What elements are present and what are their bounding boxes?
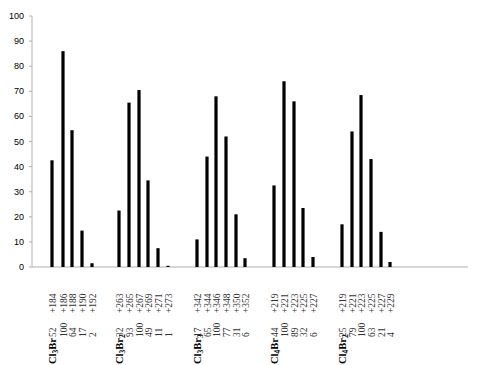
peak-label: 6+352 [241, 293, 251, 337]
bar [234, 214, 237, 267]
group-label: Cl4Br [269, 338, 282, 364]
bar [379, 232, 382, 267]
y-tick-label: 10 [14, 237, 24, 247]
bar [243, 258, 246, 267]
group-label: Cl4Br2 [337, 334, 350, 364]
y-tick-label: 30 [14, 187, 24, 197]
bar [117, 211, 120, 267]
peak-label: 63+225 [367, 293, 377, 337]
peak-label: 77+348 [222, 293, 232, 337]
peak-label: 25+219 [338, 293, 348, 337]
bar [369, 159, 372, 267]
y-tick-label: 70 [14, 86, 24, 96]
bar-group-cl4br2 [340, 95, 391, 267]
y-tick-label: 0 [19, 262, 24, 272]
y-tick-label: 20 [14, 212, 24, 222]
y-tick-label: 100 [9, 11, 24, 21]
group-label: Cl3Br2 [114, 334, 127, 364]
x-tick-labels: 52+184100+18664+18817+1902+192Cl3Br32+26… [47, 293, 396, 364]
bar [205, 157, 208, 267]
bar [301, 208, 304, 267]
bar-group-cl3br [50, 51, 93, 267]
y-axis: 0102030405060708090100 [9, 11, 32, 272]
peak-label: 64+188 [68, 293, 78, 337]
bar [311, 257, 314, 267]
bar-chart: 0102030405060708090100 52+184100+18664+1… [0, 0, 478, 365]
y-tick-label: 80 [14, 61, 24, 71]
bar-group-cl3br2 [117, 90, 169, 267]
y-tick-label: 90 [14, 36, 24, 46]
peak-label: 49+269 [144, 293, 154, 337]
y-tick-label: 40 [14, 162, 24, 172]
group-label: Cl3Br3 [192, 334, 205, 364]
bar [272, 185, 275, 267]
peak-label: 52+184 [48, 293, 58, 337]
bar [156, 248, 159, 267]
peak-label: 44+219 [270, 293, 280, 337]
y-tick-label: 60 [14, 111, 24, 121]
peak-label: 2+192 [88, 293, 98, 337]
peak-label: 17+342 [193, 293, 203, 337]
bar [70, 130, 73, 267]
bar [137, 90, 140, 267]
peak-label: 32+263 [115, 293, 125, 337]
bar [350, 131, 353, 267]
bar-series [50, 51, 391, 267]
bar-group-cl3br3 [195, 96, 246, 267]
peak-label: 100+346 [212, 293, 222, 337]
peak-label: 4+229 [386, 293, 396, 337]
bar [282, 81, 285, 267]
bar [214, 96, 217, 267]
peak-label: 93+265 [125, 293, 135, 337]
bar [80, 231, 83, 267]
bar [146, 180, 149, 267]
bar [127, 103, 130, 267]
bar [359, 95, 362, 267]
bar [340, 224, 343, 267]
peak-label: 6+227 [309, 293, 319, 337]
bar [166, 266, 169, 267]
bar [388, 262, 391, 267]
peak-label: 1+273 [164, 293, 174, 337]
y-tick-label: 50 [14, 137, 24, 147]
bar [61, 51, 64, 267]
peak-label: 100+221 [280, 293, 290, 337]
peak-label: 32+225 [299, 293, 309, 337]
group-label: Cl3Br [47, 338, 60, 364]
peak-label: 11+271 [154, 293, 164, 337]
bar [292, 101, 295, 267]
peak-label: 17+190 [78, 293, 88, 337]
peak-label: 100+223 [357, 293, 367, 337]
bar [90, 263, 93, 267]
bar-group-cl4br [272, 81, 314, 267]
bar [195, 239, 198, 267]
bar [50, 160, 53, 267]
bar [224, 136, 227, 267]
